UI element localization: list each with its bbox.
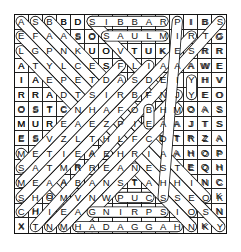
grid-cell[interactable]: H bbox=[170, 175, 184, 190]
grid-cell[interactable]: I bbox=[99, 15, 113, 30]
grid-cell[interactable]: S bbox=[15, 160, 29, 175]
grid-cell[interactable]: O bbox=[212, 88, 226, 103]
grid-cell[interactable]: S bbox=[113, 175, 127, 190]
grid-cell[interactable]: T bbox=[71, 88, 85, 103]
grid-cell[interactable]: T bbox=[43, 160, 57, 175]
grid-cell[interactable]: E bbox=[85, 117, 99, 132]
grid-cell[interactable]: A bbox=[113, 218, 127, 233]
grid-cell[interactable]: E bbox=[85, 59, 99, 74]
grid-cell[interactable]: O bbox=[43, 189, 57, 204]
grid-cell[interactable]: A bbox=[113, 160, 127, 175]
grid-cell[interactable]: A bbox=[156, 218, 170, 233]
grid-cell[interactable]: N bbox=[184, 218, 198, 233]
grid-cell[interactable]: R bbox=[212, 44, 226, 59]
grid-cell[interactable]: S bbox=[71, 30, 85, 45]
grid-cell[interactable]: A bbox=[99, 102, 113, 117]
grid-cell[interactable]: D bbox=[99, 218, 113, 233]
grid-cell[interactable]: D bbox=[156, 131, 170, 146]
grid-cell[interactable]: A bbox=[85, 218, 99, 233]
grid-cell[interactable]: V bbox=[212, 73, 226, 88]
grid-cell[interactable]: M bbox=[57, 160, 71, 175]
grid-cell[interactable]: S bbox=[128, 73, 142, 88]
grid-cell[interactable]: U bbox=[29, 117, 43, 132]
grid-cell[interactable]: F bbox=[29, 30, 43, 45]
grid-cell[interactable]: M bbox=[57, 218, 71, 233]
grid-cell[interactable]: M bbox=[15, 175, 29, 190]
grid-cell[interactable]: U bbox=[128, 30, 142, 45]
grid-cell[interactable]: S bbox=[156, 189, 170, 204]
grid-cell[interactable]: O bbox=[198, 146, 212, 161]
grid-cell[interactable]: G bbox=[142, 218, 156, 233]
grid-cell[interactable]: A bbox=[43, 30, 57, 45]
grid-cell[interactable]: X bbox=[15, 218, 29, 233]
grid-cell[interactable]: R bbox=[15, 88, 29, 103]
grid-cell[interactable]: B bbox=[57, 15, 71, 30]
grid-cell[interactable]: R bbox=[85, 160, 99, 175]
grid-cell[interactable]: J bbox=[184, 117, 198, 132]
grid-cell[interactable]: B bbox=[128, 88, 142, 103]
grid-cell[interactable]: M bbox=[15, 146, 29, 161]
grid-cell[interactable]: E bbox=[29, 146, 43, 161]
grid-cell[interactable]: D bbox=[142, 73, 156, 88]
grid-cell[interactable]: A bbox=[156, 146, 170, 161]
grid-cell[interactable]: G bbox=[212, 30, 226, 45]
grid-cell[interactable]: N bbox=[128, 160, 142, 175]
grid-cell[interactable]: E bbox=[184, 160, 198, 175]
grid-cell[interactable]: S bbox=[212, 102, 226, 117]
grid-cell[interactable]: A bbox=[170, 117, 184, 132]
grid-cell[interactable]: Z bbox=[57, 131, 71, 146]
grid-cell[interactable]: A bbox=[113, 73, 127, 88]
grid-cell[interactable]: S bbox=[156, 204, 170, 219]
grid-cell[interactable]: F bbox=[128, 131, 142, 146]
grid-cell[interactable]: Y bbox=[184, 73, 198, 88]
grid-cell[interactable]: S bbox=[99, 59, 113, 74]
grid-cell[interactable]: T bbox=[198, 117, 212, 132]
grid-cell[interactable]: I bbox=[99, 88, 113, 103]
grid-cell[interactable]: O bbox=[99, 44, 113, 59]
grid-cell[interactable]: A bbox=[29, 73, 43, 88]
grid-cell[interactable]: A bbox=[184, 59, 198, 74]
grid-cell[interactable]: Z bbox=[198, 131, 212, 146]
grid-cell[interactable]: Z bbox=[99, 117, 113, 132]
grid-cell[interactable]: H bbox=[29, 204, 43, 219]
grid-cell[interactable]: T bbox=[29, 218, 43, 233]
grid-cell[interactable]: H bbox=[212, 160, 226, 175]
grid-cell[interactable]: S bbox=[170, 189, 184, 204]
grid-cell[interactable]: E bbox=[43, 73, 57, 88]
grid-cell[interactable]: Q bbox=[198, 160, 212, 175]
grid-cell[interactable]: U bbox=[128, 189, 142, 204]
grid-cell[interactable]: Y bbox=[43, 59, 57, 74]
grid-cell[interactable]: N bbox=[57, 44, 71, 59]
grid-cell[interactable]: O bbox=[184, 102, 198, 117]
grid-cell[interactable]: N bbox=[156, 88, 170, 103]
grid-cell[interactable]: E bbox=[170, 44, 184, 59]
grid-cell[interactable]: A bbox=[142, 175, 156, 190]
grid-cell[interactable]: P bbox=[43, 44, 57, 59]
grid-cell[interactable]: G bbox=[85, 204, 99, 219]
grid-cell[interactable]: I bbox=[113, 204, 127, 219]
grid-cell[interactable]: T bbox=[43, 102, 57, 117]
grid-cell[interactable]: I bbox=[170, 30, 184, 45]
grid-cell[interactable]: L bbox=[128, 59, 142, 74]
grid-cell[interactable]: T bbox=[170, 160, 184, 175]
grid-cell[interactable]: E bbox=[184, 189, 198, 204]
grid-cell[interactable]: B bbox=[142, 102, 156, 117]
grid-cell[interactable]: M bbox=[156, 30, 170, 45]
grid-cell[interactable]: V bbox=[113, 44, 127, 59]
grid-cell[interactable]: H bbox=[198, 73, 212, 88]
grid-cell[interactable]: Y bbox=[212, 218, 226, 233]
grid-cell[interactable]: A bbox=[15, 59, 29, 74]
grid-cell[interactable]: D bbox=[99, 73, 113, 88]
grid-cell[interactable]: E bbox=[142, 160, 156, 175]
grid-cell[interactable]: E bbox=[71, 73, 85, 88]
grid-cell[interactable]: A bbox=[71, 204, 85, 219]
grid-cell[interactable]: I bbox=[142, 146, 156, 161]
grid-cell[interactable]: C bbox=[15, 204, 29, 219]
grid-cell[interactable]: O bbox=[184, 204, 198, 219]
grid-cell[interactable]: E bbox=[198, 88, 212, 103]
grid-cell[interactable]: F bbox=[113, 102, 127, 117]
grid-cell[interactable]: A bbox=[142, 15, 156, 30]
grid-cell[interactable]: R bbox=[113, 88, 127, 103]
grid-cell[interactable]: I bbox=[142, 59, 156, 74]
grid-cell[interactable]: A bbox=[85, 146, 99, 161]
